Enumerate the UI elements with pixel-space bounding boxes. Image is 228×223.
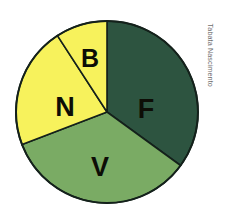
pie-chart-svg: FVNB [0, 0, 228, 223]
pie-slice-label-f: F [138, 94, 155, 124]
pie-chart-figure: FVNB Tabata Nascimento [0, 0, 228, 223]
pie-slice-label-b: B [81, 44, 99, 72]
pie-slice-label-v: V [91, 152, 109, 182]
credit-attribution-text: Tabata Nascimento [206, 24, 213, 120]
pie-slice-label-n: N [55, 92, 75, 122]
